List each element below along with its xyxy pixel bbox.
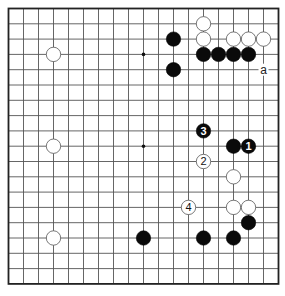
black-stone (136, 231, 150, 245)
white-stone (226, 32, 240, 46)
move-number-label: 2 (200, 155, 206, 167)
black-stone (241, 216, 255, 230)
white-stone (196, 17, 210, 31)
black-stone (166, 32, 180, 46)
white-stone (241, 200, 255, 214)
white-stone-4: 4 (181, 200, 195, 214)
white-stone (256, 32, 270, 46)
black-stone (241, 47, 255, 61)
move-number-label: 3 (200, 125, 206, 137)
move-number-label: 1 (245, 140, 251, 152)
black-stone (166, 62, 180, 76)
black-stone (226, 231, 240, 245)
white-stone (46, 231, 60, 245)
black-stone (226, 47, 240, 61)
marker-label: a (260, 63, 267, 77)
star-point (142, 53, 146, 57)
white-stone (226, 170, 240, 184)
white-stone (226, 200, 240, 214)
white-stone (196, 32, 210, 46)
move-number-label: 4 (185, 201, 191, 213)
white-stone (46, 139, 60, 153)
marker-a: a (259, 63, 269, 77)
markers-layer: a (259, 63, 269, 77)
go-board: 3124 a (0, 0, 285, 296)
black-stone (196, 231, 210, 245)
black-stone-1: 1 (241, 139, 255, 153)
white-stone-2: 2 (196, 154, 210, 168)
black-stone (211, 47, 225, 61)
star-point (142, 144, 146, 148)
black-stone (226, 139, 240, 153)
white-stone (241, 32, 255, 46)
white-stone (46, 47, 60, 61)
black-stone-3: 3 (196, 124, 210, 138)
black-stone (196, 47, 210, 61)
